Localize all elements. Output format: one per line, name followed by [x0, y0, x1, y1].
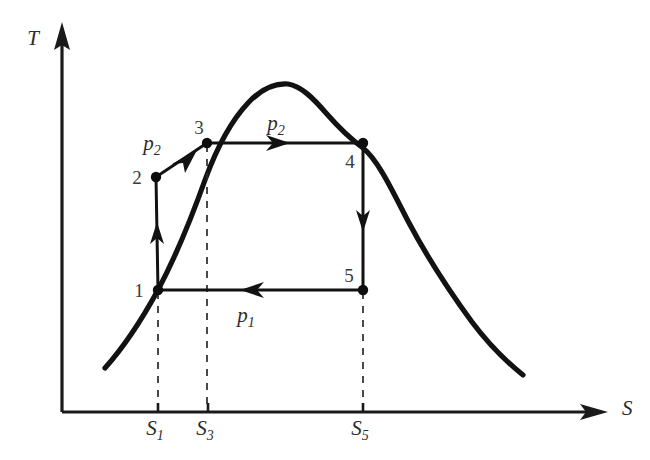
saturation-dome-curve	[105, 84, 523, 375]
entropy-tick-labels-group: S1 S3 S5	[146, 416, 369, 443]
p2-boiler-base: p	[265, 111, 278, 135]
s-axis-label: S	[622, 396, 633, 420]
pressure-label-p1-condenser: p1	[235, 303, 255, 330]
p2-pump-base: p	[141, 131, 154, 155]
s3-base: S	[196, 416, 207, 440]
state-label-2: 2	[132, 167, 142, 188]
state-dot-2	[151, 172, 161, 182]
state-label-4: 4	[345, 151, 355, 172]
s5-sub: 5	[362, 428, 369, 443]
tick-label-s3: S3	[196, 416, 214, 443]
s3-sub: 3	[206, 428, 214, 443]
process-paths-group	[150, 135, 370, 298]
state-label-1: 1	[134, 280, 144, 301]
t-axis-label: T	[27, 26, 40, 50]
ts-diagram-figure: T S	[0, 0, 650, 460]
s1-base: S	[146, 416, 157, 440]
pressure-label-p2-boiler: p2	[265, 111, 285, 138]
p1-cond-sub: 1	[248, 315, 255, 330]
p2-boiler-sub: 2	[278, 123, 285, 138]
axes-group: T S	[27, 22, 633, 420]
s1-sub: 1	[157, 428, 164, 443]
ts-diagram-canvas: T S	[0, 0, 650, 460]
tick-label-s1: S1	[146, 416, 164, 443]
p1-cond-base: p	[235, 303, 248, 327]
p2-pump-sub: 2	[154, 143, 161, 158]
tick-label-s5: S5	[351, 416, 369, 443]
s5-base: S	[351, 416, 362, 440]
pressure-label-p2-pump: p2	[141, 131, 161, 158]
saturation-dome-group	[105, 84, 523, 375]
process-arrow-2-3-upright	[172, 150, 197, 173]
state-label-5: 5	[344, 265, 354, 286]
state-dot-4	[358, 138, 368, 148]
state-dot-1	[153, 285, 163, 295]
state-label-3: 3	[194, 117, 204, 138]
state-dot-5	[358, 285, 368, 295]
state-dot-3	[202, 138, 212, 148]
dropline-group	[158, 145, 363, 408]
